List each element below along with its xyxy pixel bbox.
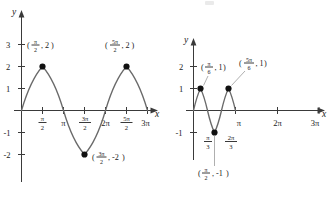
left-label-paren-open-3: ( — [92, 153, 95, 162]
right-point-label-pi-over-2: ( π 2 , -1 ) — [198, 167, 229, 181]
left-x-tick-label-3pi-over-2-den: 2 — [83, 124, 86, 131]
right-x-tick-label-2pi-over-3-num: 2π — [228, 134, 235, 141]
left-label-y-3: -2 — [112, 153, 119, 162]
left-point-label-3pi-over-2: ( 3π 2 , -2 ) — [92, 151, 125, 165]
right-label-paren-close-3: ) — [226, 169, 229, 178]
right-label-y-1: 1 — [219, 63, 223, 72]
right-label-y-2: 1 — [260, 59, 264, 68]
left-label-paren-close-1: ) — [51, 41, 54, 50]
left-x-tick-label-pi-over-2-den: 2 — [41, 124, 44, 131]
left-point-label-pi-over-2: ( π 2 , 2 ) — [27, 39, 54, 53]
left-y-axis-arrowhead — [19, 10, 25, 18]
left-y-axis-label: y — [11, 7, 17, 17]
right-label-paren-open-1: ( — [201, 63, 204, 72]
left-y-axis — [19, 10, 25, 182]
right-x-tick-label-2pi-over-3-den: 3 — [229, 143, 233, 150]
right-x-tick-label-pi-over-3-den: 3 — [206, 143, 210, 150]
left-label-x-den-3: 2 — [100, 159, 103, 165]
right-leader-pi-over-6 — [204, 76, 209, 86]
left-y-tick-label-neg1: -1 — [3, 128, 10, 138]
left-label-comma-1: , — [41, 41, 43, 50]
right-x-tick-label-pi-over-3-num: π — [206, 134, 210, 141]
right-y-tick-label-1: 1 — [179, 84, 183, 94]
right-label-paren-open-2: ( — [239, 59, 242, 68]
right-label-x-num-3: π — [204, 167, 207, 173]
right-x-tick-label-3pi: 3π — [311, 118, 320, 128]
left-label-x-num-3: 3π — [98, 151, 104, 157]
left-x-tick-label-pi-over-2-num: π — [41, 115, 45, 122]
left-x-tick-label-3pi-over-2-num: 3π — [82, 115, 89, 122]
chart-right-sine: y x 2 1 -1 π 2π 3π π — [167, 0, 334, 206]
right-label-comma-3: , — [212, 169, 214, 178]
left-label-paren-close-2: ) — [132, 41, 135, 50]
left-label-paren-open-1: ( — [27, 41, 30, 50]
right-y-axis-label: y — [183, 35, 189, 45]
right-y-axis — [191, 38, 197, 160]
right-label-paren-close-1: ) — [223, 63, 226, 72]
right-y-tick-label-2: 2 — [179, 62, 183, 72]
left-label-comma-3: , — [108, 153, 110, 162]
left-x-tick-label-pi: π — [61, 118, 66, 128]
right-x-tick-label-pi: π — [237, 118, 242, 128]
right-point-label-5pi-over-6: ( 5π 6 , 1 ) — [239, 57, 267, 71]
left-y-tick-label-3: 3 — [6, 40, 10, 50]
right-label-x-den-3: 2 — [205, 175, 208, 181]
right-point-pi-over-6 — [197, 85, 203, 91]
right-label-x-num-1: π — [207, 61, 210, 67]
right-x-ticks-below: π 3 2π 3 — [204, 134, 237, 150]
left-y-tick-label-2: 2 — [6, 62, 10, 72]
right-label-comma-1: , — [215, 63, 217, 72]
left-y-tick-label-neg2: -2 — [3, 150, 10, 160]
left-sine-svg: y x 3 2 1 -1 -2 π 2 — [0, 0, 167, 206]
left-x-tick-label-5pi-over-2-num: 5π — [123, 115, 130, 122]
right-label-comma-2: , — [256, 59, 258, 68]
left-x-axis — [14, 108, 158, 114]
figure-pair: y x 3 2 1 -1 -2 π 2 — [0, 0, 334, 206]
left-x-axis-label: x — [154, 109, 160, 119]
left-label-paren-open-2: ( — [105, 41, 108, 50]
scan-artifact — [205, 1, 214, 5]
left-x-tick-label-5pi-over-2-den: 2 — [125, 124, 128, 131]
right-label-x-num-2: 5π — [246, 57, 252, 63]
chart-left-sine: y x 3 2 1 -1 -2 π 2 — [0, 0, 167, 206]
right-y-tick-label-neg1: -1 — [175, 128, 182, 138]
right-label-paren-close-2: ) — [264, 59, 267, 68]
right-point-label-pi-over-6: ( π 6 , 1 ) — [201, 61, 226, 75]
left-label-paren-close-3: ) — [122, 153, 125, 162]
left-label-y-2: 2 — [126, 41, 130, 50]
right-label-paren-open-3: ( — [198, 169, 201, 178]
right-y-axis-arrowhead — [191, 38, 197, 46]
left-point-3pi-over-2 — [81, 151, 87, 157]
left-label-x-den-2: 2 — [114, 47, 117, 53]
right-label-x-den-1: 6 — [208, 69, 211, 75]
right-sine-svg: y x 2 1 -1 π 2π 3π π — [167, 0, 334, 206]
left-point-pi-over-2 — [39, 63, 45, 69]
left-label-x-num-2: 5π — [112, 39, 118, 45]
right-point-pi-over-2 — [211, 129, 217, 135]
left-label-x-den-1: 2 — [34, 47, 37, 53]
left-y-tick-label-1: 1 — [6, 84, 10, 94]
right-label-y-3: -1 — [216, 169, 223, 178]
right-point-5pi-over-6 — [225, 85, 231, 91]
left-point-label-5pi-over-2: ( 5π 2 , 2 ) — [105, 39, 135, 53]
right-label-x-den-2: 6 — [248, 65, 251, 71]
left-label-x-num-1: π — [34, 39, 37, 45]
left-point-5pi-over-2 — [123, 63, 129, 69]
left-x-tick-label-3pi: 3π — [141, 118, 150, 128]
left-label-comma-2: , — [122, 41, 124, 50]
right-x-axis-label: x — [321, 109, 327, 119]
left-label-y-1: 2 — [45, 41, 49, 50]
right-x-tick-label-2pi: 2π — [273, 118, 282, 128]
right-leader-5pi-over-6 — [232, 71, 246, 86]
